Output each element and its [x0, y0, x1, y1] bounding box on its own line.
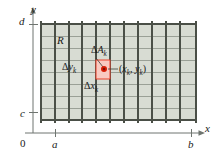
region-label-r: R: [57, 35, 64, 46]
label-sample-point: (xk, yk): [119, 64, 146, 77]
x-tick-label-b: b: [188, 139, 194, 150]
delta-x-subscript: k: [95, 86, 98, 94]
origin-label: 0: [20, 138, 26, 149]
y-tick-label-c: c: [20, 108, 25, 119]
delta-y-subscript: k: [73, 67, 76, 75]
sample-point-dot-core: [103, 68, 106, 71]
label-delta-area: ΔAk: [91, 45, 107, 58]
axis-label-x: x: [205, 123, 210, 134]
delta-area-subscript: k: [104, 50, 107, 58]
axis-label-y: y: [31, 4, 36, 15]
paren-close: ): [143, 63, 146, 74]
x-tick-label-a: a: [52, 139, 58, 150]
figure-double-integral-partition: y x d c 0 a b R ΔAk Δyk Δxk (xk, yk): [0, 0, 216, 167]
figure-canvas: [0, 0, 216, 167]
y-tick-label-d: d: [19, 16, 25, 27]
label-delta-x: Δxk: [84, 81, 98, 94]
label-delta-y: Δyk: [62, 62, 76, 75]
